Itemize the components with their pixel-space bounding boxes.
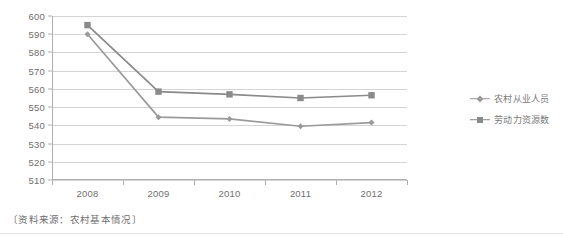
x-tick-mark xyxy=(407,180,408,185)
y-tick-label: 550 xyxy=(29,102,45,113)
x-tick-label: 2011 xyxy=(290,188,311,199)
x-tick-mark xyxy=(336,180,337,185)
series-1 xyxy=(85,31,375,129)
y-tick-label: 560 xyxy=(29,83,45,94)
data-point-square xyxy=(226,91,232,97)
x-tick-label: 2008 xyxy=(77,188,99,199)
y-tick-label: 520 xyxy=(29,156,45,167)
legend-label-series-2: 劳动力资源数 xyxy=(494,113,550,126)
y-tick-label: 590 xyxy=(29,29,45,40)
data-point-square xyxy=(84,22,90,28)
x-tick-mark xyxy=(265,180,266,185)
legend-label-series-1: 农村从业人员 xyxy=(494,92,550,105)
series-line xyxy=(88,25,372,98)
y-tick-label: 510 xyxy=(29,175,45,186)
gridline xyxy=(52,180,407,181)
data-point-square xyxy=(368,92,374,98)
source-footnote: 〔资料来源：农村基本情况〕 xyxy=(8,212,142,226)
data-point-diamond xyxy=(298,123,304,129)
chart-root: 510520530540550560570580590600 200820092… xyxy=(0,0,563,238)
y-tick-label: 580 xyxy=(29,47,45,58)
x-tick-label: 2009 xyxy=(148,188,170,199)
series-2 xyxy=(84,22,374,101)
x-tick-label: 2010 xyxy=(219,188,241,199)
x-tick-label: 2012 xyxy=(361,188,383,199)
series-line xyxy=(88,34,372,126)
legend-square-marker-icon xyxy=(470,115,490,125)
data-point-square xyxy=(297,95,303,101)
bottom-divider xyxy=(0,233,563,234)
data-point-diamond xyxy=(369,120,375,126)
y-tick-label: 530 xyxy=(29,138,45,149)
data-point-diamond xyxy=(227,116,233,122)
chart-legend: 农村从业人员 劳动力资源数 xyxy=(470,92,550,126)
series-plot xyxy=(52,16,407,180)
x-tick-mark xyxy=(194,180,195,185)
y-tick-label: 540 xyxy=(29,120,45,131)
plot-area: 510520530540550560570580590600 200820092… xyxy=(52,16,407,180)
legend-item-series-1[interactable]: 农村从业人员 xyxy=(470,92,550,105)
y-tick-label: 600 xyxy=(29,11,45,22)
x-tick-mark xyxy=(52,180,53,185)
x-tick-mark xyxy=(123,180,124,185)
data-point-square xyxy=(155,88,161,94)
legend-diamond-marker-icon xyxy=(470,94,490,104)
legend-item-series-2[interactable]: 劳动力资源数 xyxy=(470,113,550,126)
y-tick-label: 570 xyxy=(29,65,45,76)
